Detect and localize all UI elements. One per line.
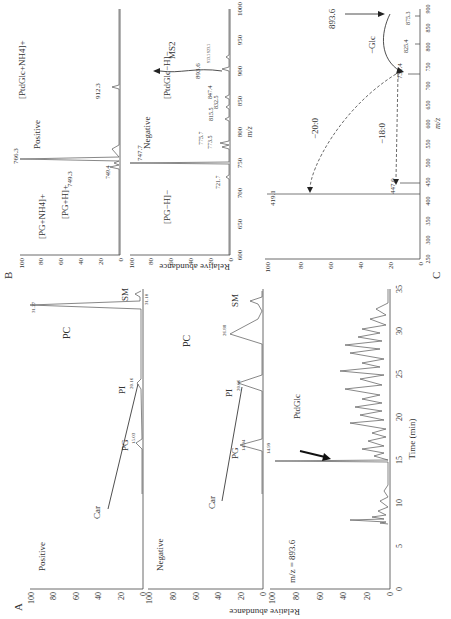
chart-b-positive: 02040 6080100 [PG+NH4]+ [PG+H]+ 766.3 74…	[12, 9, 125, 269]
svg-text:20.16: 20.16	[129, 377, 134, 389]
chart-c-ms2: 02040 6080100 250300350 400450500 550600…	[264, 5, 442, 273]
svg-text:100: 100	[145, 592, 154, 604]
svg-text:31.10: 31.10	[144, 293, 149, 305]
panel-a-label: A	[12, 603, 24, 611]
svg-text:775.7: 775.7	[198, 132, 204, 146]
svg-text:300: 300	[425, 236, 431, 245]
svg-text:20.06: 20.06	[236, 379, 241, 391]
svg-text:100: 100	[128, 258, 136, 269]
svg-text:40: 40	[339, 592, 348, 600]
svg-text:450: 450	[425, 178, 431, 187]
figure-rotated: A 02040 6080100 Positive PG 15.03 Car PI…	[0, 0, 451, 619]
svg-text:40: 40	[77, 258, 85, 266]
svg-text:650: 650	[236, 218, 244, 229]
svg-text:0: 0	[386, 592, 395, 596]
svg-text:80: 80	[37, 258, 45, 266]
ylabel-a: Relative abundance	[229, 607, 300, 617]
svg-text:850: 850	[425, 24, 431, 33]
svg-text:0: 0	[259, 592, 268, 596]
svg-text:100: 100	[264, 262, 272, 273]
svg-text:SM: SM	[230, 294, 240, 307]
xlabel-time: Time (min)	[407, 419, 417, 460]
svg-text:80: 80	[147, 258, 155, 266]
chart-a-positive: 02040 6080100 Positive PG 15.03 Car PI 2…	[27, 288, 149, 604]
svg-text:PG: PG	[120, 439, 130, 451]
svg-text:750: 750	[425, 63, 431, 72]
svg-text:Positive: Positive	[32, 120, 42, 149]
svg-text:20: 20	[207, 258, 215, 266]
svg-text:25: 25	[395, 370, 404, 378]
svg-text:250: 250	[425, 255, 431, 264]
svg-text:800: 800	[425, 43, 431, 52]
svg-text:35: 35	[395, 285, 404, 293]
svg-text:5: 5	[395, 544, 404, 548]
svg-text:14.99: 14.99	[266, 442, 271, 454]
svg-text:40: 40	[214, 592, 223, 600]
svg-text:80: 80	[49, 592, 58, 600]
svg-text:30: 30	[395, 327, 404, 335]
svg-text:SM: SM	[120, 288, 130, 301]
svg-text:912.3: 912.3	[94, 83, 102, 99]
svg-text:PI: PI	[117, 386, 127, 394]
svg-text:MS2: MS2	[167, 41, 177, 59]
svg-text:PC: PC	[181, 334, 192, 347]
svg-text:750: 750	[236, 157, 244, 168]
svg-text:PI: PI	[224, 389, 234, 397]
svg-text:721.7: 721.7	[215, 176, 221, 190]
svg-text:[PG−H]−: [PG−H]−	[162, 190, 172, 224]
svg-text:20: 20	[395, 413, 404, 421]
svg-text:10: 10	[395, 499, 404, 507]
svg-text:80: 80	[169, 592, 178, 600]
svg-text:400: 400	[425, 197, 431, 206]
figure-svg: A 02040 6080100 Positive PG 15.03 Car PI…	[0, 0, 451, 619]
svg-text:[PG+H]+: [PG+H]+	[60, 185, 70, 219]
svg-text:60: 60	[167, 258, 175, 266]
svg-text:20: 20	[97, 258, 105, 266]
svg-text:60: 60	[57, 258, 65, 266]
svg-text:825.4: 825.4	[403, 40, 409, 54]
svg-text:20: 20	[387, 262, 395, 270]
svg-text:847.4: 847.4	[207, 86, 213, 100]
svg-text:700: 700	[425, 82, 431, 91]
svg-text:60: 60	[327, 262, 335, 270]
svg-text:815.5: 815.5	[208, 108, 214, 122]
svg-text:0: 0	[417, 262, 425, 266]
label-positive-a: Positive	[37, 542, 47, 571]
svg-text:350: 350	[425, 217, 431, 226]
svg-text:550: 550	[425, 140, 431, 149]
svg-text:20: 20	[237, 592, 246, 600]
svg-text:PC: PC	[61, 326, 72, 339]
svg-text:749.4: 749.4	[105, 166, 111, 180]
svg-text:832.5: 832.5	[213, 96, 219, 110]
svg-text:600: 600	[236, 249, 244, 260]
chart-a-ptdglc: 02040 6080100 0510 152025 3035 Time (min…	[268, 285, 417, 604]
svg-text:40: 40	[187, 258, 195, 266]
label-mz-893: m/z = 893.6	[287, 539, 297, 583]
svg-text:0: 0	[227, 258, 235, 262]
svg-text:850: 850	[236, 95, 244, 106]
svg-text:60: 60	[192, 592, 201, 600]
svg-text:419.1: 419.1	[269, 190, 277, 206]
svg-text:26.88: 26.88	[222, 324, 227, 336]
svg-text:60: 60	[72, 592, 81, 600]
svg-text:900: 900	[236, 65, 244, 76]
svg-text:40: 40	[94, 592, 103, 600]
svg-text:15: 15	[395, 456, 404, 464]
svg-text:893.6: 893.6	[327, 8, 337, 29]
svg-text:−Glc: −Glc	[367, 36, 377, 54]
svg-text:650: 650	[425, 101, 431, 110]
svg-text:−18:0: −18:0	[377, 122, 387, 144]
label-negative-a: Negative	[155, 539, 165, 571]
svg-text:m/z: m/z	[245, 126, 254, 138]
svg-text:m/z: m/z	[433, 117, 442, 129]
svg-text:800: 800	[236, 126, 244, 137]
svg-text:[PG+NH4]+: [PG+NH4]+	[37, 194, 47, 239]
svg-text:Car: Car	[207, 496, 217, 509]
svg-text:14.94: 14.94	[241, 439, 246, 451]
panel-b-label: B	[2, 272, 14, 279]
svg-text:−20:0: −20:0	[310, 117, 320, 139]
svg-text:700: 700	[236, 187, 244, 198]
svg-text:773.5: 773.5	[207, 136, 213, 150]
svg-text:749.3: 749.3	[66, 171, 74, 187]
svg-text:0: 0	[117, 258, 125, 262]
